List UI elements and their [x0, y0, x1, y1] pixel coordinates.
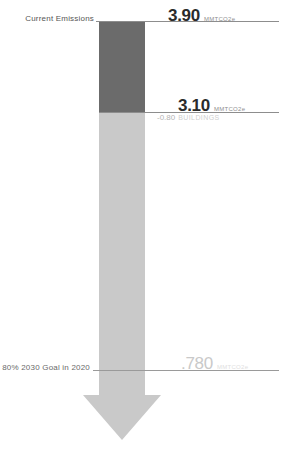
- arrow-shape: [76, 21, 168, 440]
- unit-current-emissions: MMTCO2e: [204, 16, 235, 22]
- label-current-emissions: Current Emissions: [0, 14, 94, 23]
- callout-current-emissions: 3.90 MMTCO2e: [168, 6, 235, 26]
- delta-value-buildings: -0.80: [157, 113, 175, 122]
- value-current-emissions: 3.90: [168, 6, 200, 26]
- value-goal-2030: .780: [181, 354, 213, 374]
- label-goal-2030: 80% 2030 Goal in 2020: [0, 363, 90, 372]
- unit-goal-2030: MMTCO2e: [217, 364, 248, 370]
- emissions-arrow: [99, 21, 145, 440]
- leader-line-goal: [93, 370, 102, 371]
- emissions-arrow-chart: Current Emissions 80% 2030 Goal in 2020 …: [0, 0, 283, 454]
- annotation-buildings-delta: -0.80 BUILDINGS: [157, 113, 220, 122]
- arrow-segment-dark: [99, 21, 145, 112]
- callout-goal-2030: .780 MMTCO2e: [181, 354, 248, 374]
- unit-after-buildings: MMTCO2e: [214, 106, 245, 112]
- delta-category-buildings: BUILDINGS: [178, 114, 219, 121]
- leader-line-current: [96, 21, 102, 22]
